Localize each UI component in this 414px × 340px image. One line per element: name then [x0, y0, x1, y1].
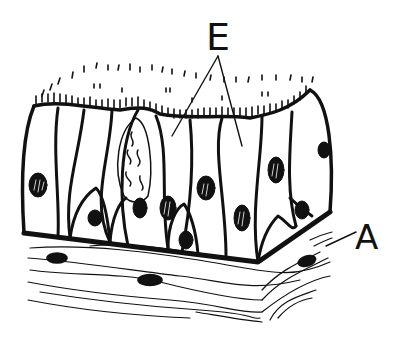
cilia [36, 63, 313, 118]
label-E: E [206, 18, 230, 56]
epithelium-left-edge [22, 106, 34, 233]
label-A: A [355, 220, 378, 254]
label-E-pointers [172, 56, 242, 146]
cell-nuclei [29, 142, 330, 249]
